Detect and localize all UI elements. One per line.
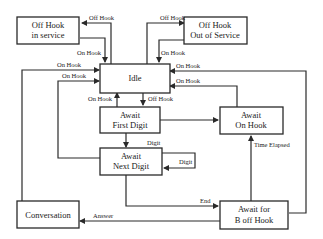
state-await-next-digit: Await Next Digit [100,148,162,175]
label-b-off-hook-to-idle: On Hook [176,62,201,69]
state-off-hook-out-of-service: Off Hook Out of Service [184,17,247,44]
label-next-digit-to-idle: On Hook [62,72,87,79]
label-await-on-hook-to-idle: On Hook [176,77,201,84]
label-in-service-to-idle: On Hook [77,49,102,56]
label-answer: Answer [93,212,114,219]
edge-conversation-to-idle [22,70,99,207]
svg-text:Await: Await [241,110,262,120]
state-await-b-off-hook: Await for B off Hook [220,201,288,229]
state-idle: Idle [100,64,170,93]
svg-text:Next Digit: Next Digit [113,161,150,171]
label-conversation-to-idle: On Hook [57,61,82,68]
label-first-digit-to-idle: On Hook [88,95,113,102]
label-end: End [200,197,211,204]
label-time-elapsed: Time Elapsed [254,141,290,148]
svg-text:Out of Service: Out of Service [190,30,240,40]
svg-text:First Digit: First Digit [112,120,148,130]
state-conversation: Conversation [17,201,79,228]
label-first-digit-to-next-digit: Digit [147,139,161,146]
svg-text:On Hook: On Hook [235,120,267,130]
state-await-on-hook: Await On Hook [220,107,283,134]
edge-next-digit-to-idle [58,81,100,158]
svg-text:Await: Await [121,151,142,161]
svg-text:Idle: Idle [128,73,141,83]
edge-idle-to-out-of-service [147,23,184,64]
svg-text:Off Hook: Off Hook [199,20,232,30]
label-out-of-service-to-idle: On Hook [161,49,186,56]
state-off-hook-in-service: Off Hook in service [17,17,79,44]
state-diagram: Off Hook in service Off Hook Out of Serv… [0,0,323,239]
label-idle-to-first-digit: Off Hook [148,95,174,102]
edge-await-on-hook-to-idle [170,86,237,107]
state-await-first-digit: Await First Digit [100,107,160,133]
svg-text:Await: Await [120,110,141,120]
label-idle-to-out-of-service: Off Hook [160,14,186,21]
svg-text:in service: in service [32,30,65,40]
label-next-digit-self: Digit [179,158,193,165]
svg-text:Off Hook: Off Hook [32,20,65,30]
label-idle-to-in-service: Off Hook [89,14,115,21]
svg-text:Await for: Await for [238,204,270,214]
svg-text:B off Hook: B off Hook [235,215,274,225]
svg-text:Conversation: Conversation [25,210,71,220]
edge-idle-to-in-service [82,23,111,64]
